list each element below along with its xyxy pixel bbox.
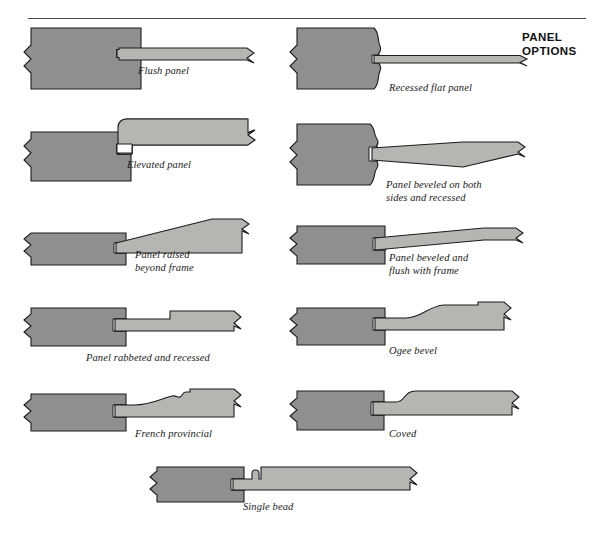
caption-panel-rabbeted-recessed: Panel rabbeted and recessed: [86, 352, 210, 365]
caption-coved: Coved: [389, 428, 416, 441]
figure-panel-rabbeted-recessed: [22, 305, 262, 353]
frame-body: [24, 394, 126, 431]
frame-body: [24, 132, 131, 181]
figure-elevated-panel: [22, 117, 262, 185]
frame-body: [290, 124, 378, 185]
frame-body: [290, 28, 381, 89]
frame-body: [290, 226, 385, 264]
frame-body: [24, 308, 126, 346]
frame-body: [24, 233, 126, 265]
panel-body: [375, 228, 523, 250]
panel-body: [233, 467, 417, 490]
panel-body: [373, 391, 519, 415]
frame-body: [290, 308, 385, 345]
panel-body: [372, 142, 525, 167]
panel-body: [115, 311, 241, 331]
figure-flush-panel: [22, 26, 262, 92]
frame-body: [150, 467, 244, 502]
frame-body: [290, 391, 384, 430]
panel-body: [116, 219, 249, 253]
caption-elevated-panel: Elevated panel: [127, 159, 191, 172]
caption-panel-beveled-flush: Panel beveled and flush with frame: [389, 252, 468, 277]
panel-body: [375, 302, 511, 330]
panel-outline: [118, 119, 255, 154]
illustration-sheet: PANEL OPTIONS Flush panel Recessed flat …: [0, 0, 613, 533]
panel-body: [374, 56, 527, 67]
caption-recessed-flat-panel: Recessed flat panel: [389, 82, 472, 95]
panel-body: [115, 389, 241, 417]
caption-panel-beveled-both-sides: Panel beveled on both sides and recessed: [386, 179, 482, 204]
caption-single-bead: Single bead: [243, 501, 293, 514]
groove-slot-2: [117, 144, 132, 153]
caption-french-provincial: French provincial: [135, 428, 212, 441]
caption-panel-raised-beyond-frame: Panel raised beyond frame: [135, 249, 194, 274]
caption-flush-panel: Flush panel: [138, 65, 189, 78]
caption-ogee-bevel: Ogee bevel: [389, 345, 437, 358]
header-divider-rule: [28, 18, 586, 19]
